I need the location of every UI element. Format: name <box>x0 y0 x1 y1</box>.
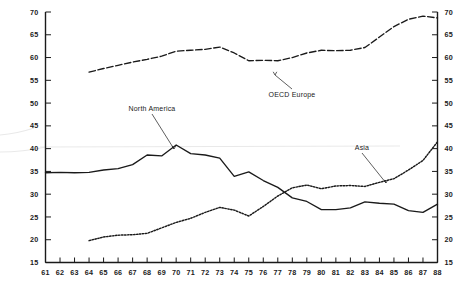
x-tick-label-64: 64 <box>85 268 93 277</box>
x-tick-label-87: 87 <box>419 268 427 277</box>
y-tick-label-left-50: 50 <box>30 99 38 108</box>
series-line-oecd-europe <box>89 16 437 72</box>
annotation-leader-oecd-europe <box>275 75 292 89</box>
y-tick-label-right-20: 20 <box>445 235 453 244</box>
data-series-group <box>46 16 438 241</box>
x-tick-label-82: 82 <box>346 268 354 277</box>
y-axis-right-ticks: 152025303540455055606570 <box>432 8 453 268</box>
x-axis-ticks: 6162636465666768697071727374757677787980… <box>41 258 441 277</box>
series-label-north-america: North America <box>129 105 176 112</box>
y-tick-label-left-35: 35 <box>30 167 38 176</box>
y-tick-label-left-20: 20 <box>30 235 38 244</box>
x-tick-label-62: 62 <box>56 268 64 277</box>
x-tick-label-86: 86 <box>404 268 412 277</box>
y-tick-label-right-15: 15 <box>445 258 453 267</box>
y-tick-label-right-65: 65 <box>445 30 453 39</box>
x-tick-label-73: 73 <box>216 268 224 277</box>
x-tick-label-66: 66 <box>114 268 122 277</box>
x-tick-label-77: 77 <box>274 268 282 277</box>
series-label-asia: Asia <box>355 144 369 151</box>
x-tick-label-78: 78 <box>288 268 296 277</box>
y-tick-label-right-50: 50 <box>445 99 453 108</box>
x-tick-label-85: 85 <box>390 268 398 277</box>
scan-artifacts <box>0 128 400 152</box>
annotation-arrow-oecd-europe <box>273 72 277 75</box>
y-tick-label-right-45: 45 <box>445 121 453 130</box>
y-tick-label-left-60: 60 <box>30 53 38 62</box>
x-tick-label-76: 76 <box>259 268 267 277</box>
x-tick-label-70: 70 <box>172 268 180 277</box>
y-tick-label-right-40: 40 <box>445 144 453 153</box>
x-tick-label-65: 65 <box>99 268 107 277</box>
x-tick-label-67: 67 <box>128 268 136 277</box>
series-line-north-america <box>46 145 438 212</box>
line-chart: 152025303540455055606570 152025303540455… <box>0 0 471 285</box>
x-tick-label-88: 88 <box>433 268 441 277</box>
x-tick-label-63: 63 <box>70 268 78 277</box>
chart-axes <box>46 12 438 263</box>
x-tick-label-81: 81 <box>332 268 340 277</box>
x-tick-label-74: 74 <box>230 268 238 277</box>
y-tick-label-left-70: 70 <box>30 8 38 17</box>
chart-container: 152025303540455055606570 152025303540455… <box>0 0 471 285</box>
y-tick-label-right-60: 60 <box>445 53 453 62</box>
y-axis-left-ticks: 152025303540455055606570 <box>30 8 51 268</box>
x-tick-label-80: 80 <box>317 268 325 277</box>
x-tick-label-84: 84 <box>375 268 383 277</box>
y-tick-label-right-55: 55 <box>445 76 453 85</box>
x-tick-label-75: 75 <box>245 268 253 277</box>
y-tick-label-left-40: 40 <box>30 144 38 153</box>
y-tick-label-left-55: 55 <box>30 76 38 85</box>
x-tick-label-69: 69 <box>157 268 165 277</box>
annotation-leader-north-america <box>152 114 174 149</box>
x-tick-label-79: 79 <box>303 268 311 277</box>
y-tick-label-left-65: 65 <box>30 30 38 39</box>
y-tick-label-right-25: 25 <box>445 213 453 222</box>
x-tick-label-61: 61 <box>41 268 49 277</box>
y-tick-label-right-35: 35 <box>445 167 453 176</box>
annotation-leader-asia <box>362 153 386 183</box>
annotation-leaders <box>152 72 388 183</box>
y-tick-label-left-25: 25 <box>30 213 38 222</box>
y-tick-label-left-15: 15 <box>30 258 38 267</box>
y-tick-label-left-45: 45 <box>30 121 38 130</box>
series-line-asia <box>89 142 437 241</box>
x-tick-label-83: 83 <box>361 268 369 277</box>
y-tick-label-right-70: 70 <box>445 8 453 17</box>
x-tick-label-71: 71 <box>186 268 194 277</box>
series-label-oecd-europe: OECD Europe <box>269 91 316 99</box>
x-tick-label-72: 72 <box>201 268 209 277</box>
y-tick-label-right-30: 30 <box>445 190 453 199</box>
y-tick-label-left-30: 30 <box>30 190 38 199</box>
x-tick-label-68: 68 <box>143 268 151 277</box>
